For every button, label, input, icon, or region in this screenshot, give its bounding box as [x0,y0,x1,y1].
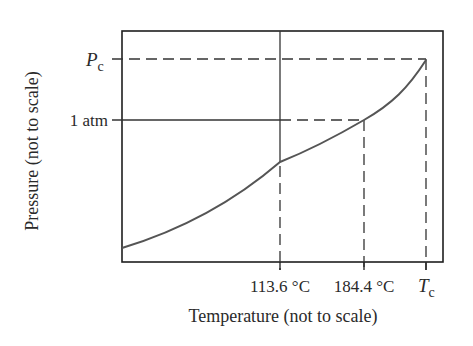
t2-label: 184.4 °C [334,277,395,296]
t1-label: 113.6 °C [250,277,310,296]
plot-frame [122,31,443,262]
phase-diagram-chart: Pc 1 atm 113.6 °C 184.4 °C Tc Temperatur… [0,0,473,346]
tc-label: Tc [418,275,435,300]
pc-label: Pc [85,49,104,74]
x-axis-label: Temperature (not to scale) [188,306,377,327]
one-atm-label: 1 atm [70,111,108,130]
y-axis-label: Pressure (not to scale) [22,71,43,230]
vapor-pressure-curve [122,60,426,248]
